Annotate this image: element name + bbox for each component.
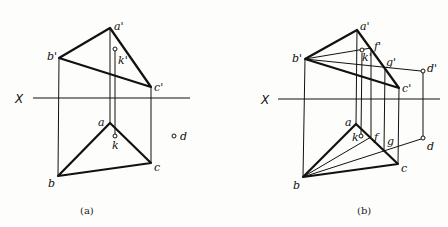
caption-b: (b) xyxy=(357,205,371,216)
point-d xyxy=(421,136,425,140)
label-d: d xyxy=(180,130,187,143)
label-c: c xyxy=(154,161,160,174)
label-b-prime: b' xyxy=(47,50,57,63)
point-d-prime xyxy=(421,69,425,73)
label-d-prime: d' xyxy=(427,62,437,75)
projector-b xyxy=(58,58,59,176)
figure-b: X a' b' c' k' f' g' d' a b c k xyxy=(260,20,440,216)
label-f: f xyxy=(373,131,380,144)
label-k-prime: k' xyxy=(118,54,128,67)
label-b: b xyxy=(293,179,300,192)
label-k: k xyxy=(112,139,119,152)
label-a-prime: a' xyxy=(114,20,124,33)
x-axis-label: X xyxy=(14,92,24,106)
label-a-prime: a' xyxy=(360,20,370,33)
label-f-prime: f' xyxy=(373,40,381,53)
projection-diagram: X a' b' c' k' a b c k d (a) X xyxy=(0,0,448,227)
label-c-prime: c' xyxy=(154,81,163,94)
label-c: c xyxy=(401,162,407,175)
label-b-prime: b' xyxy=(292,52,302,65)
label-d: d xyxy=(427,140,434,153)
label-b: b xyxy=(48,177,55,190)
front-view-triangle xyxy=(59,28,151,87)
figure-a: X a' b' c' k' a b c k d (a) xyxy=(14,20,190,216)
label-c-prime: c' xyxy=(402,82,411,95)
top-view-triangle xyxy=(58,123,151,176)
projector-b xyxy=(303,59,305,177)
point-k xyxy=(113,134,117,138)
projector-g xyxy=(384,68,385,150)
caption-a: (a) xyxy=(80,205,94,216)
label-g: g xyxy=(387,135,394,148)
x-axis-label: X xyxy=(260,93,270,107)
label-k-prime: k' xyxy=(362,51,372,64)
point-k-prime xyxy=(113,47,117,51)
projector-a xyxy=(356,30,357,124)
point-k xyxy=(359,134,363,138)
label-g-prime: g' xyxy=(386,56,396,69)
label-a: a xyxy=(345,116,352,129)
label-k: k xyxy=(352,131,359,144)
point-d xyxy=(172,134,176,138)
label-a: a xyxy=(98,116,105,129)
